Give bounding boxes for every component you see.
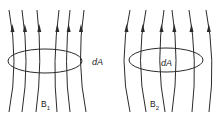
field-line [55,10,59,112]
arrow-up-icon [141,24,145,32]
arrow-up-icon [67,24,71,32]
arrow-up-icon [37,24,41,32]
arrow-up-icon [160,24,164,32]
magnetic-flux-diagram: dA B1 dA B2 [0,0,224,124]
arrow-up-icon [190,24,194,32]
arrow-up-icon [125,24,129,32]
panel-b1: dA B1 [8,10,103,112]
panel-b2: dA B2 [124,10,212,112]
area-element-dA-1 [8,49,82,73]
field-line [22,10,26,112]
field-lines-b1 [9,10,86,112]
arrow-up-icon [55,24,59,32]
field-line [67,10,71,112]
field-line [141,10,147,112]
arrow-up-icon [207,24,211,32]
arrowheads-b1 [11,24,84,32]
field-label-b2: B2 [150,99,160,111]
field-label-b1: B1 [41,99,51,111]
area-label-dA-2: dA [161,58,172,68]
arrow-up-icon [172,24,176,32]
area-label-dA-1: dA [92,57,103,67]
field-line [9,10,14,112]
arrowheads-b2 [125,24,211,32]
